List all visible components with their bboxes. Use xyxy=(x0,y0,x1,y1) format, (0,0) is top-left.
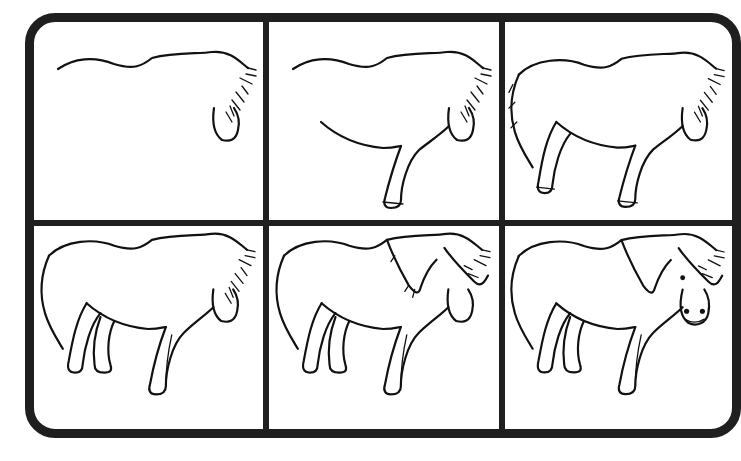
pony-step-1-drawing xyxy=(34,22,263,220)
full-mane xyxy=(387,240,437,297)
hind-leg xyxy=(537,122,571,193)
pony-step-3-drawing xyxy=(505,22,732,220)
step-2-panel xyxy=(269,22,499,220)
drawing-steps-frame xyxy=(25,13,741,438)
belly-line xyxy=(321,122,401,148)
pony-step-6-drawing xyxy=(505,226,732,429)
far-hind-leg xyxy=(94,317,115,372)
step-4-panel xyxy=(34,226,263,429)
step-1-panel xyxy=(34,22,263,220)
forelock xyxy=(444,248,490,285)
mane-tufts xyxy=(226,68,256,122)
rump-and-tail xyxy=(509,75,533,168)
step-6-panel xyxy=(505,226,732,429)
front-leg xyxy=(383,126,449,208)
pony-step-5-drawing xyxy=(269,226,499,429)
pony-step-2-drawing xyxy=(269,22,499,220)
step-5-panel xyxy=(269,226,499,429)
back-line xyxy=(58,52,248,69)
nostrils xyxy=(684,309,705,314)
eye xyxy=(680,275,685,280)
pony-step-4-drawing xyxy=(34,226,263,429)
step-3-panel xyxy=(505,22,732,220)
